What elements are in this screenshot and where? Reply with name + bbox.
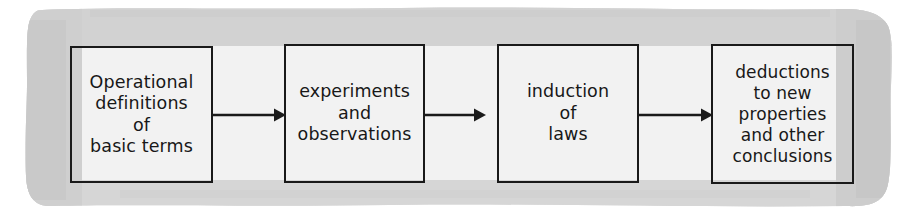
flow-box-label: Operational definitions of basic terms — [90, 72, 194, 158]
figure-canvas: Operational definitions of basic terms e… — [0, 0, 919, 217]
arrow-right-icon — [423, 105, 486, 125]
flow-box-experiments-observations: experiments and observations — [284, 44, 425, 183]
arrow-right-icon — [211, 105, 286, 125]
flow-box-deductions: deductions to new properties and other c… — [711, 44, 854, 184]
flow-box-label: deductions to new properties and other c… — [732, 62, 832, 167]
flow-box-label: experiments and observations — [298, 81, 412, 146]
flow-box-label: induction of laws — [527, 81, 609, 146]
arrow-right-icon — [637, 105, 713, 125]
flow-box-induction-of-laws: induction of laws — [497, 44, 639, 183]
flow-box-operational-definitions: Operational definitions of basic terms — [70, 46, 213, 183]
